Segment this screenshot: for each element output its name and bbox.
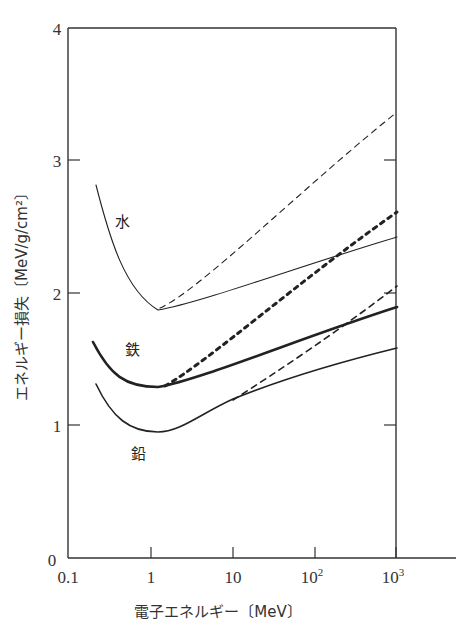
plot-frame bbox=[68, 28, 456, 558]
x-axis-title: 電子エネルギー〔MeV〕 bbox=[134, 603, 301, 621]
y-tick-4: 4 bbox=[53, 20, 62, 39]
iron-label: 鉄 bbox=[125, 341, 140, 359]
x-tick-1: 1 bbox=[147, 568, 156, 587]
lead-label: 鉛 bbox=[131, 445, 146, 463]
energy-loss-chart: 0 1 2 3 4 0.1 1 10 102 103 電子エネルギー〔MeV〕 … bbox=[0, 0, 466, 641]
y-tick-0: 0 bbox=[48, 551, 57, 570]
y-tick-2: 2 bbox=[53, 285, 62, 304]
water-dashed-curve bbox=[160, 112, 397, 308]
x-tick-100: 102 bbox=[301, 566, 324, 587]
water-solid-curve bbox=[96, 185, 397, 310]
iron-dotted-curve bbox=[165, 212, 397, 386]
y-axis-title: エネルギー損失〔MeV/g/cm²〕 bbox=[13, 185, 31, 401]
x-ticks bbox=[151, 547, 396, 558]
x-tick-1000: 103 bbox=[382, 566, 405, 587]
y-tick-1: 1 bbox=[53, 417, 62, 436]
y-tick-3: 3 bbox=[53, 152, 62, 171]
water-label: 水 bbox=[115, 213, 130, 231]
lead-dashed-curve bbox=[233, 286, 397, 400]
x-tick-10: 10 bbox=[225, 568, 242, 587]
x-tick-0.1: 0.1 bbox=[57, 568, 78, 587]
y-ticks bbox=[68, 160, 396, 425]
